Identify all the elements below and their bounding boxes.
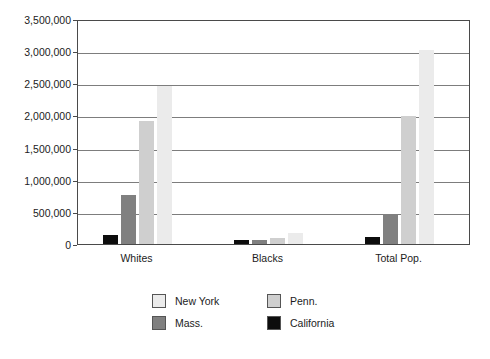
y-axis-tick-label: 2,000,000 (0, 110, 71, 122)
legend-label-california: California (290, 317, 334, 329)
legend-item-new-york[interactable]: New York (152, 294, 267, 308)
plot-area (77, 20, 470, 245)
chart-legend: New YorkPenn.Mass.California (152, 290, 382, 334)
legend-swatch-new-york (152, 294, 166, 308)
gridline (78, 85, 469, 86)
x-axis-label-blacks: Blacks (252, 252, 283, 264)
y-axis-tick-label: 3,000,000 (0, 46, 71, 58)
bar-california-total-pop (365, 237, 380, 244)
bar-chart-figure: 3,500,0003,000,0002,500,0002,000,0001,50… (0, 0, 490, 359)
bar-new-york-whites (157, 86, 172, 244)
y-axis-tick-label: 1,500,000 (0, 143, 71, 155)
legend-row: Mass.California (152, 312, 382, 334)
legend-label-new-york: New York (175, 295, 219, 307)
y-axis-tick-label: 2,500,000 (0, 78, 71, 90)
legend-swatch-mass (152, 316, 166, 330)
bar-new-york-total-pop (419, 50, 434, 244)
bar-mass-whites (121, 195, 136, 244)
x-axis-label-whites: Whites (120, 252, 152, 264)
legend-label-penn: Penn. (290, 295, 317, 307)
x-axis-label-total-pop: Total Pop. (375, 252, 422, 264)
legend-swatch-california (267, 316, 281, 330)
legend-swatch-penn (267, 294, 281, 308)
legend-row: New YorkPenn. (152, 290, 382, 312)
chart-title (0, 0, 490, 2)
bar-mass-blacks (252, 240, 267, 244)
bar-california-whites (103, 235, 118, 244)
y-axis-tick-label: 500,000 (0, 207, 71, 219)
y-axis-tick-label: 3,500,000 (0, 14, 71, 26)
bar-mass-total-pop (383, 214, 398, 244)
legend-label-mass: Mass. (175, 317, 203, 329)
gridline (78, 53, 469, 54)
legend-item-california[interactable]: California (267, 316, 382, 330)
y-axis-tick-mark (73, 245, 77, 246)
y-axis-tick-label: 0 (0, 239, 71, 251)
y-axis-tick-label: 1,000,000 (0, 175, 71, 187)
legend-item-penn[interactable]: Penn. (267, 294, 382, 308)
legend-item-mass[interactable]: Mass. (152, 316, 267, 330)
bar-penn-blacks (270, 238, 285, 244)
bar-new-york-blacks (288, 233, 303, 244)
bar-penn-whites (139, 121, 154, 244)
bar-penn-total-pop (401, 116, 416, 244)
bar-california-blacks (234, 240, 249, 244)
